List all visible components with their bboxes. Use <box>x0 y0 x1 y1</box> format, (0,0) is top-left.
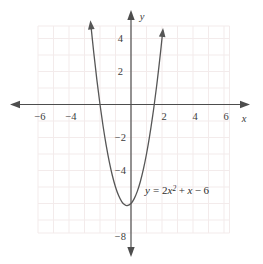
y-tick-label: −4 <box>115 165 127 176</box>
x-tick-label: 2 <box>161 111 166 122</box>
grid-vertical <box>38 26 230 233</box>
curve-left-arrow-icon <box>88 20 95 29</box>
x-axis-left-arrow-icon <box>10 101 20 108</box>
x-tick-label: −6 <box>34 111 45 122</box>
x-tick-label: 6 <box>223 111 228 122</box>
equation-lhs: y <box>144 184 150 196</box>
equation-var2: x <box>186 184 192 196</box>
equation-constant: 6 <box>204 184 210 196</box>
y-axis-label: y <box>139 11 145 22</box>
x-axis-right-arrow-icon <box>240 101 250 108</box>
x-tick-label: −4 <box>65 111 77 122</box>
grid-horizontal <box>38 26 230 233</box>
y-tick-label: 4 <box>118 33 124 44</box>
equation-exponent: 2 <box>173 184 177 193</box>
equation-plus: + <box>179 184 185 196</box>
x-axis-label: x <box>241 113 247 124</box>
equation-equals: = <box>153 184 159 196</box>
equation-minus: − <box>195 184 201 196</box>
y-tick-labels: 4 2 −2 −4 −8 <box>115 33 127 242</box>
equation-annotation: y=2x2+x−6 <box>144 184 210 197</box>
y-axis-top-arrow-icon <box>127 10 134 20</box>
graph-figure: #plot-svg [data-name="grid-lines"] line … <box>0 0 263 264</box>
y-tick-label: 2 <box>118 66 123 77</box>
y-axis-bottom-arrow-icon <box>127 247 134 257</box>
x-tick-label: 4 <box>192 111 198 122</box>
y-tick-label: −2 <box>115 132 126 143</box>
coordinate-plane-chart: #plot-svg [data-name="grid-lines"] line … <box>0 0 263 264</box>
curve-path <box>91 23 163 205</box>
grid-lines: #plot-svg [data-name="grid-lines"] line … <box>38 26 230 233</box>
y-tick-label: −8 <box>115 231 126 242</box>
